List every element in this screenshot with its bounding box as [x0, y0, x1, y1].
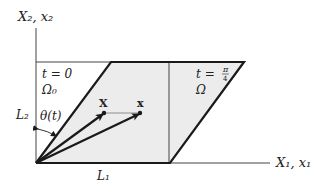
reference-point-label: X — [99, 97, 108, 110]
current-time-fraction-den: 4 — [223, 75, 228, 83]
horizontal-axis-label: X₁, x₁ — [275, 155, 311, 170]
current-point-dot — [138, 111, 142, 115]
vertical-axis-label: X₂, x₂ — [17, 9, 53, 24]
angle-label: θ(t) — [40, 109, 62, 123]
shear-angle-arc — [38, 129, 56, 136]
reference-domain-label: Ω₀ — [41, 83, 57, 97]
current-domain-label: Ω — [195, 83, 206, 97]
width-label: L₁ — [96, 169, 110, 183]
current-point-label: x — [137, 97, 144, 110]
shear-deformation-diagram: X₂, x₂ X₁, x₁ t = 0 Ω₀ L₂ L₁ θ(t) t = π … — [0, 0, 322, 189]
current-time-fraction-num: π — [222, 65, 229, 74]
reference-time-label: t = 0 — [42, 67, 73, 81]
reference-point-dot — [102, 111, 106, 115]
current-time-label: t = — [196, 67, 215, 81]
height-label: L₂ — [15, 108, 29, 122]
